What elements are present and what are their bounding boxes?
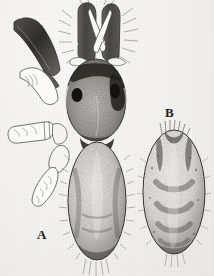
leg-4-outline: [32, 145, 69, 206]
figure-b-abdomen: [137, 120, 211, 267]
spider-illustration-artwork: [0, 0, 214, 276]
figure-plate: A B: [0, 0, 214, 276]
leg-3-outline: [8, 121, 67, 144]
figure-a-abdomen: [59, 142, 135, 276]
figure-a-legs: [8, 18, 69, 206]
figure-a-carapace: [66, 59, 127, 146]
figure-a-pedipalps: [58, 0, 138, 66]
figure-label-a: A: [37, 228, 46, 241]
spinneret-hairs: [83, 259, 109, 276]
right-eye: [110, 84, 120, 99]
left-eye: [72, 88, 83, 102]
figure-label-b: B: [165, 106, 174, 119]
